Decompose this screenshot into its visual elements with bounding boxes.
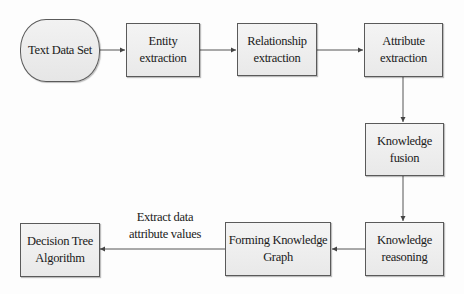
node-label: Decision Tree Algorithm: [27, 233, 93, 267]
node-label: Forming Knowledge Graph: [229, 232, 328, 266]
node-label: Relationship extraction: [247, 33, 307, 67]
node-label: Entity extraction: [140, 33, 187, 67]
node-text-data-set: Text Data Set: [20, 19, 100, 82]
node-attribute-extraction: Attribute extraction: [364, 23, 443, 77]
node-entity-extraction: Entity extraction: [126, 23, 200, 77]
node-decision-tree-algorithm: Decision Tree Algorithm: [20, 223, 100, 277]
node-forming-knowledge-graph: Forming Knowledge Graph: [225, 222, 331, 276]
node-relationship-extraction: Relationship extraction: [237, 23, 317, 76]
node-knowledge-reasoning: Knowledge reasoning: [365, 222, 444, 276]
node-knowledge-fusion: Knowledge fusion: [365, 123, 444, 176]
node-label: Attribute extraction: [380, 33, 427, 67]
edge-label-extract-data: Extract data attribute values: [110, 209, 220, 243]
node-label: Knowledge fusion: [377, 133, 432, 167]
node-label: Knowledge reasoning: [377, 232, 432, 266]
node-label: Text Data Set: [28, 42, 92, 59]
flowchart-canvas: Text Data Set Entity extraction Relation…: [0, 0, 464, 294]
